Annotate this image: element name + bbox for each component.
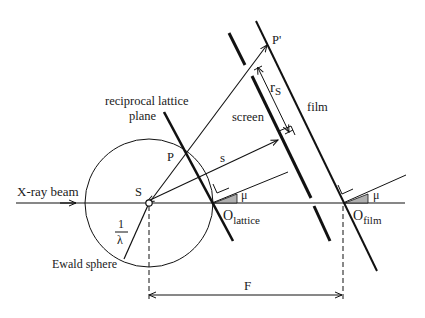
label-O-lattice: Olattice bbox=[223, 208, 260, 226]
mu-angle-film bbox=[345, 194, 368, 203]
label-radius-denominator: λ bbox=[117, 233, 123, 247]
point-S-marker bbox=[146, 200, 152, 206]
label-xray-beam: X-ray beam bbox=[17, 184, 79, 199]
radius-line bbox=[124, 203, 149, 259]
ewald-diagram: X-ray beam Ewald sphere reciprocal latti… bbox=[0, 0, 425, 318]
film-line bbox=[256, 21, 377, 271]
right-angle-mark-film bbox=[338, 185, 353, 194]
label-radius-numerator: 1 bbox=[118, 217, 124, 231]
normal-line-lattice bbox=[212, 172, 288, 203]
label-plane: plane bbox=[129, 109, 157, 123]
label-point-S: S bbox=[135, 185, 142, 199]
r-s-tick-bottom bbox=[285, 130, 293, 134]
screen-segment-bottom bbox=[314, 206, 330, 241]
label-vector-s: s bbox=[220, 150, 225, 165]
label-film: film bbox=[307, 100, 328, 114]
label-mu-lattice: μ bbox=[241, 188, 247, 202]
label-point-P: P bbox=[167, 150, 174, 164]
label-r-s: rS bbox=[270, 79, 281, 97]
label-point-Pprime: P' bbox=[272, 33, 281, 47]
label-mu-film: μ bbox=[373, 188, 379, 202]
right-angle-mark-lattice bbox=[213, 184, 229, 193]
mu-angle-lattice bbox=[214, 194, 237, 203]
screen-segment-middle bbox=[252, 76, 311, 198]
label-ewald-sphere: Ewald sphere bbox=[52, 257, 117, 271]
label-screen: screen bbox=[232, 110, 265, 124]
label-distance-F: F bbox=[244, 278, 251, 293]
screen-segment-top bbox=[229, 33, 245, 65]
label-O-film: Ofilm bbox=[353, 208, 382, 226]
label-reciprocal-lattice: reciprocal lattice bbox=[105, 94, 189, 108]
r-s-tick-top bbox=[254, 66, 262, 70]
diagram-svg: X-ray beam Ewald sphere reciprocal latti… bbox=[0, 0, 425, 318]
